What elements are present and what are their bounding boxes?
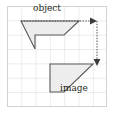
geometry-figure: object image [0, 0, 114, 114]
image-label: image [60, 84, 88, 93]
object-label: object [33, 4, 61, 13]
diagram-canvas [0, 0, 114, 114]
